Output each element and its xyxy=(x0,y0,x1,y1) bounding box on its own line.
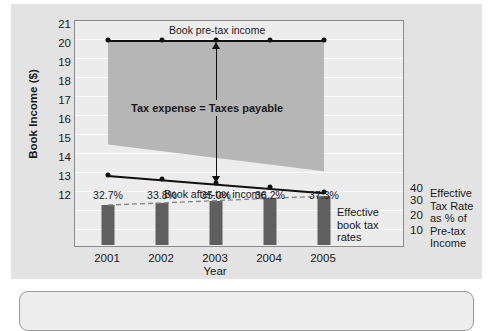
bar-2002[interactable] xyxy=(156,203,169,245)
y-tick-17: 17 xyxy=(58,94,71,106)
right-tick-30: 30 xyxy=(410,194,423,206)
arrow-head-down-icon xyxy=(212,176,220,183)
chart-figure-panel: 21 20 19 18 17 16 15 14 13 12 Book Incom… xyxy=(11,4,482,279)
tax-expense-annotation: Tax expense = Taxes payable xyxy=(127,100,287,116)
right-axis-line-2: Tax Rate xyxy=(430,200,473,213)
bar-legend-line-1: Effective xyxy=(337,206,379,219)
x-tick-2004: 2004 xyxy=(256,252,282,264)
right-tick-10: 10 xyxy=(410,224,423,236)
bottom-rounded-panel xyxy=(19,291,474,331)
y-tick-19: 19 xyxy=(58,56,71,68)
right-axis-line-3: as % of xyxy=(430,212,473,225)
y-tick-14: 14 xyxy=(58,151,71,163)
y-axis-title: Book Income ($) xyxy=(27,54,39,174)
bar-2001[interactable] xyxy=(102,205,115,245)
right-axis-title: Effective Tax Rate as % of Pre-tax Incom… xyxy=(430,187,473,250)
pretax-marker-2001 xyxy=(106,38,111,43)
bar-2005[interactable] xyxy=(318,196,331,245)
y-tick-18: 18 xyxy=(58,75,71,87)
y-axis-ticks: 21 20 19 18 17 16 15 14 13 12 xyxy=(49,4,71,279)
bar-value-2005: 37.3% xyxy=(309,189,339,201)
pretax-marker-2005 xyxy=(322,38,327,43)
bar-value-2001: 32.7% xyxy=(93,189,123,201)
bar-series-legend: Effective book tax rates xyxy=(337,206,379,244)
aftertax-marker-2002 xyxy=(160,176,165,181)
bar-value-2004: 36.2% xyxy=(255,189,285,201)
right-tick-40: 40 xyxy=(410,182,423,194)
plot-area: Book pre-tax income Book after-tax incom… xyxy=(74,20,404,247)
right-axis-line-5: Income xyxy=(430,237,473,250)
y-tick-20: 20 xyxy=(58,37,71,49)
bar-2003[interactable] xyxy=(210,201,223,245)
bar-value-2003: 35.0% xyxy=(201,189,231,201)
x-tick-2002: 2002 xyxy=(148,252,174,264)
x-tick-2003: 2003 xyxy=(202,252,228,264)
bar-2004[interactable] xyxy=(264,198,277,245)
x-axis-title: Year xyxy=(203,265,226,277)
y-tick-21: 21 xyxy=(58,18,71,30)
y-tick-13: 13 xyxy=(58,170,71,182)
aftertax-marker-2001 xyxy=(106,172,111,177)
right-tick-20: 20 xyxy=(410,209,423,221)
bar-legend-line-3: rates xyxy=(337,231,379,244)
bar-value-2002: 33.8% xyxy=(147,189,177,201)
pretax-marker-2004 xyxy=(268,38,273,43)
x-tick-2005: 2005 xyxy=(310,252,336,264)
arrow-head-up-icon xyxy=(212,42,220,49)
y-tick-15: 15 xyxy=(58,132,71,144)
pretax-income-label: Book pre-tax income xyxy=(169,24,265,36)
pretax-marker-2002 xyxy=(160,38,165,43)
right-axis-line-4: Pre-tax xyxy=(430,225,473,238)
bar-legend-line-2: book tax xyxy=(337,219,379,232)
gridline xyxy=(75,172,403,174)
y-tick-16: 16 xyxy=(58,113,71,125)
right-axis-line-1: Effective xyxy=(430,187,473,200)
y-tick-12: 12 xyxy=(58,189,71,201)
x-tick-2001: 2001 xyxy=(94,252,120,264)
